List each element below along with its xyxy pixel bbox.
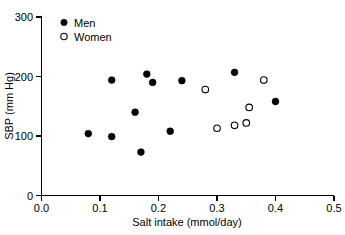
x-axis-ticks (42, 196, 335, 202)
data-point-women-3 (243, 120, 250, 127)
x-tick-label-0.5: 0.5 (326, 202, 341, 214)
data-point-women-1 (214, 125, 221, 132)
y-tick-label-100: 100 (15, 130, 33, 142)
legend: Men Women (61, 17, 112, 43)
legend-label-men: Men (74, 17, 95, 29)
x-axis-title: Salt intake (mmol/day) (132, 216, 241, 228)
data-point-men-10 (272, 98, 279, 105)
legend-marker-men (61, 19, 67, 25)
data-point-women-5 (261, 77, 268, 84)
y-tick-label-200: 200 (15, 71, 33, 83)
legend-label-women: Women (74, 31, 112, 43)
data-series-women (202, 77, 267, 132)
y-axis-tick-labels: 0100200300 (15, 11, 33, 202)
scatter-plot-figure: 0100200300 0.00.10.20.30.40.5 Men Women … (0, 0, 345, 235)
data-point-men-9 (231, 69, 238, 76)
x-tick-label-0.1: 0.1 (92, 202, 107, 214)
legend-marker-women (61, 33, 67, 39)
data-point-women-0 (202, 86, 209, 93)
data-point-women-2 (231, 122, 238, 129)
data-point-men-7 (167, 128, 174, 135)
x-tick-label-0.2: 0.2 (151, 202, 166, 214)
data-point-men-0 (85, 130, 92, 137)
x-axis-tick-labels: 0.00.10.20.30.40.5 (34, 202, 342, 214)
data-point-men-1 (108, 77, 115, 84)
data-point-men-8 (179, 77, 186, 84)
y-axis-title: SBP (mm Hg) (3, 72, 15, 140)
data-point-men-3 (132, 109, 139, 116)
y-axis-ticks (36, 17, 42, 196)
x-tick-label-0.3: 0.3 (209, 202, 224, 214)
y-tick-label-300: 300 (15, 11, 33, 23)
data-series-men (85, 69, 279, 156)
plot-canvas: 0100200300 0.00.10.20.30.40.5 Men Women … (0, 0, 345, 235)
x-tick-label-0.0: 0.0 (34, 202, 49, 214)
x-tick-label-0.4: 0.4 (268, 202, 283, 214)
data-point-men-2 (108, 133, 115, 140)
data-point-men-5 (143, 71, 150, 78)
y-tick-label-0: 0 (27, 190, 33, 202)
data-point-men-6 (149, 79, 156, 86)
data-point-men-4 (138, 149, 145, 156)
data-point-women-4 (246, 104, 253, 111)
